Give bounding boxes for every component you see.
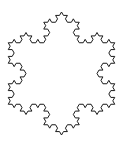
- snowflake-outline: [8, 12, 115, 135]
- koch-snowflake-diagram: [0, 0, 122, 142]
